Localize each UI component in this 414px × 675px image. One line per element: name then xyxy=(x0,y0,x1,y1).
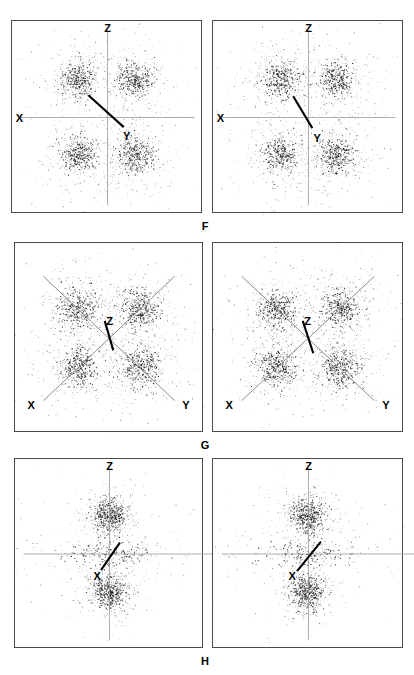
axis-label-x: X xyxy=(94,570,101,581)
pole-figure-grid: ZXYZXYFXYZXYZGZYXZYXH xyxy=(0,0,414,675)
panel-canvas xyxy=(0,443,220,665)
axis-lines xyxy=(24,469,218,641)
figure-row-h: ZYXZYXH xyxy=(0,0,414,675)
axis-label-z: Z xyxy=(305,461,312,472)
pole-figure-panel: ZYX xyxy=(212,458,403,648)
axis-lines xyxy=(222,469,414,641)
axis-line-x xyxy=(297,542,321,571)
panel-plot-area: ZYX xyxy=(213,459,402,647)
figure-row-label: H xyxy=(195,656,215,667)
panel-canvas xyxy=(197,443,414,665)
axis-label-x: X xyxy=(289,570,296,581)
scatter-points xyxy=(15,466,194,640)
pole-figure-panel: ZYX xyxy=(14,458,203,648)
panel-plot-area: ZYX xyxy=(15,459,202,647)
axis-label-z: Z xyxy=(106,461,113,472)
